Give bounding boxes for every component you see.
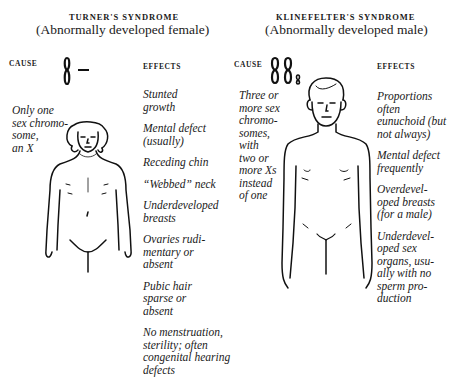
turner-effect-item: Underdevelopedbreasts: [143, 199, 230, 224]
turner-effect-item: Mental defect(usually): [143, 122, 230, 147]
female-figure-icon: [42, 120, 137, 295]
turner-effects-label: EFFECTS: [143, 62, 181, 71]
klinefelter-effect-item: Overdevel-oped breasts(for a male): [377, 183, 446, 221]
turner-effect-item: Ovaries rudi-mentary orabsent: [143, 233, 230, 271]
klinefelter-cause-text: Three or more sex chromo- somes, with tw…: [239, 89, 280, 202]
klinefelter-effects-list: Proportionsofteneunuchoid (butnot always…: [377, 90, 446, 314]
klinefelter-title: KLINEFELTER'S SYNDROME: [276, 12, 415, 22]
klinefelter-effects-label: EFFECTS: [377, 62, 415, 71]
turner-effect-item: “Webbed” neck: [143, 178, 230, 191]
male-figure-icon: [280, 78, 375, 318]
klinefelter-subtitle: (Abnormally developed male): [265, 22, 428, 38]
turner-title: TURNER'S SYNDROME: [69, 12, 179, 22]
turner-cause-label: CAUSE: [9, 59, 37, 68]
klinefelter-cause-label: CAUSE: [234, 60, 262, 69]
turner-effect-item: No menstruation,sterility; oftencongenit…: [143, 326, 230, 376]
turner-effect-item: Stuntedgrowth: [143, 88, 230, 113]
klinefelter-effect-item: Mental defectfrequently: [377, 149, 446, 174]
turner-subtitle: (Abnormally developed female): [36, 22, 209, 38]
klinefelter-effect-item: Proportionsofteneunuchoid (butnot always…: [377, 90, 446, 140]
klinefelter-effect-item: Underdevel-oped sexorgans, usu-ally with…: [377, 230, 446, 305]
turner-effect-item: Receding chin: [143, 156, 230, 169]
turner-effects-list: Stuntedgrowth Mental defect(usually) Rec…: [143, 88, 230, 381]
x-chromosome-icon: [64, 56, 104, 86]
turner-effect-item: Pubic hairsparse orabsent: [143, 280, 230, 318]
